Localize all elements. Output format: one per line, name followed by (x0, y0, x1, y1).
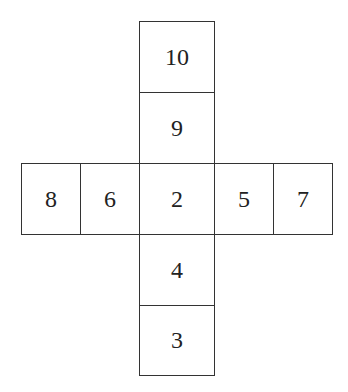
face-number: 2 (171, 186, 183, 213)
face-top-1: 10 (139, 21, 215, 93)
face-number: 4 (171, 257, 183, 284)
face-number: 8 (45, 186, 57, 213)
face-number: 7 (297, 186, 309, 213)
face-top-2: 9 (139, 92, 215, 164)
face-bottom-1: 4 (139, 234, 215, 306)
face-number: 6 (104, 186, 116, 213)
face-center: 2 (139, 163, 215, 235)
face-bottom-2: 3 (139, 305, 215, 376)
face-number: 9 (171, 115, 183, 142)
face-number: 5 (238, 186, 250, 213)
face-right-outer: 7 (273, 163, 333, 235)
face-left-inner: 6 (80, 163, 140, 235)
face-number: 10 (165, 44, 189, 71)
face-left-outer: 8 (21, 163, 81, 235)
face-right-inner: 5 (214, 163, 274, 235)
face-number: 3 (171, 327, 183, 354)
